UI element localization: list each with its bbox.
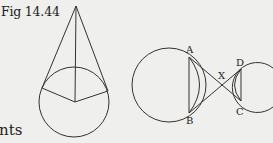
label-b: B bbox=[186, 115, 193, 126]
left-tangent-diagram bbox=[39, 6, 109, 137]
label-x: X bbox=[218, 70, 225, 81]
label-a: A bbox=[186, 44, 193, 55]
right-crossing-circles-diagram bbox=[132, 48, 273, 122]
trailing-text-fragment: nts bbox=[0, 121, 22, 139]
label-c: C bbox=[236, 106, 244, 117]
geometry-diagram bbox=[0, 0, 273, 143]
label-d: D bbox=[236, 57, 244, 68]
